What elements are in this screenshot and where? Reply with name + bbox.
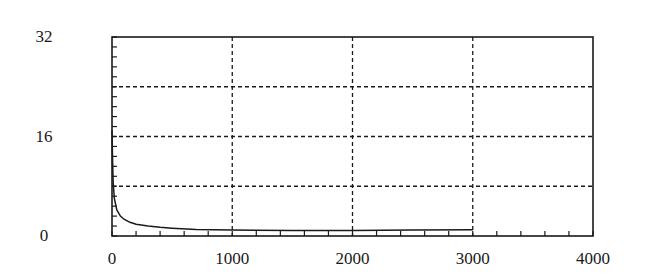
- line-chart: 01000200030004000 01632: [0, 0, 667, 279]
- x-tick-label: 2000: [336, 249, 370, 268]
- y-tick-label: 16: [36, 127, 53, 146]
- x-axis-tick-labels: 01000200030004000: [108, 249, 610, 268]
- y-tick-label: 0: [40, 226, 49, 245]
- data-line: [112, 130, 473, 230]
- y-tick-label: 32: [36, 27, 53, 46]
- grid-lines: [112, 37, 593, 236]
- x-tick-label: 4000: [576, 249, 610, 268]
- x-tick-label: 3000: [456, 249, 490, 268]
- y-axis-tick-labels: 01632: [36, 27, 53, 245]
- x-tick-label: 1000: [215, 249, 249, 268]
- x-tick-label: 0: [108, 249, 117, 268]
